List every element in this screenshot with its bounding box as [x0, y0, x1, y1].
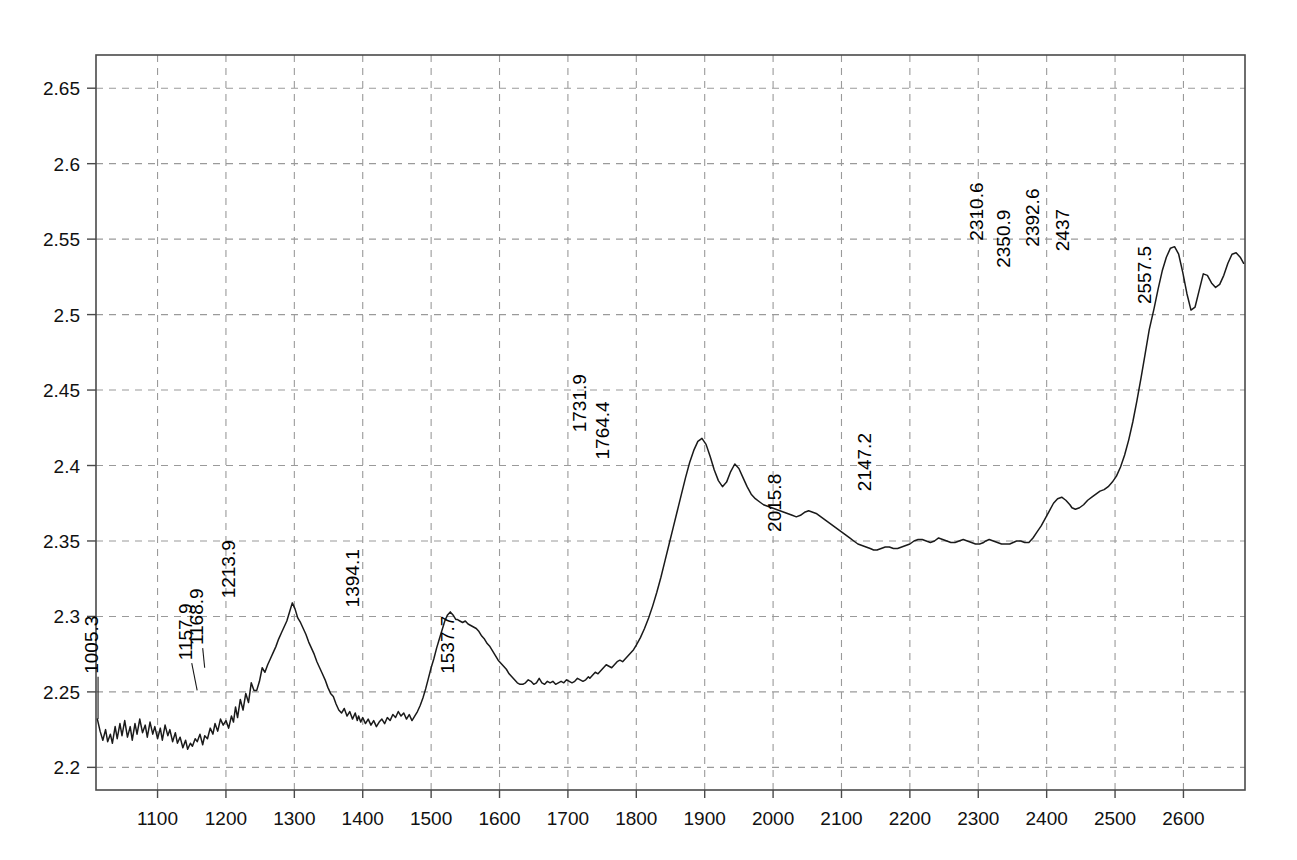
x-tick-label: 2400: [1026, 808, 1068, 829]
x-tick-label: 1100: [137, 808, 178, 829]
peak-label: 1213.9: [218, 540, 239, 598]
x-tick-label: 2500: [1094, 808, 1136, 829]
chart-canvas: 1100120013001400150016001700180019002000…: [0, 0, 1297, 860]
y-tick-label: 2.6: [54, 154, 80, 175]
y-tick-label: 2.4: [54, 456, 81, 477]
x-tick-label: 2000: [752, 808, 794, 829]
y-tick-label: 2.5: [54, 305, 80, 326]
x-tick-label: 1400: [342, 808, 384, 829]
x-tick-label: 1700: [547, 808, 589, 829]
x-tick-label: 1800: [615, 808, 657, 829]
y-tick-label: 2.3: [54, 606, 80, 627]
x-tick-label: 1500: [410, 808, 452, 829]
spectrum-chart: 1100120013001400150016001700180019002000…: [0, 0, 1297, 860]
peak-label: 1537.7: [437, 616, 458, 674]
x-tick-label: 2300: [957, 808, 999, 829]
y-tick-label: 2.65: [43, 78, 80, 99]
x-tick-label: 2600: [1162, 808, 1204, 829]
y-tick-label: 2.35: [43, 531, 80, 552]
peak-label: 1168.9: [186, 588, 207, 645]
peak-label: 2310.6: [966, 183, 987, 241]
peak-label: 2147.2: [854, 433, 875, 491]
x-tick-label: 1200: [205, 808, 247, 829]
chart-background: [0, 0, 1297, 860]
y-tick-label: 2.55: [43, 229, 80, 250]
peak-label: 1394.1: [342, 549, 363, 607]
y-tick-label: 2.25: [43, 682, 80, 703]
peak-label: 2350.9: [993, 210, 1014, 268]
peak-label: 1005.3: [81, 616, 102, 674]
x-tick-label: 1900: [684, 808, 726, 829]
x-tick-label: 2200: [889, 808, 931, 829]
peak-label: 2015.8: [764, 474, 785, 532]
peak-label: 2437: [1052, 209, 1073, 251]
peak-label: 2557.5: [1134, 246, 1155, 304]
x-tick-label: 1600: [478, 808, 520, 829]
y-tick-label: 2.2: [54, 757, 80, 778]
x-tick-label: 1300: [273, 808, 315, 829]
peak-label: 1731.9: [569, 374, 590, 432]
y-tick-label: 2.45: [43, 380, 80, 401]
peak-label: 1764.4: [592, 401, 613, 460]
x-tick-label: 2100: [820, 808, 862, 829]
peak-label: 2392.6: [1022, 189, 1043, 247]
